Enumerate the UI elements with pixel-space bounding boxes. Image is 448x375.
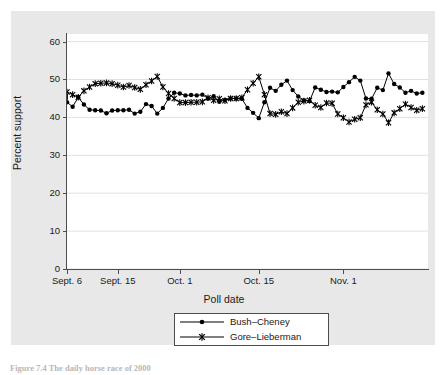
series-1 bbox=[67, 71, 425, 120]
data-point bbox=[408, 104, 413, 111]
data-point bbox=[81, 88, 86, 95]
data-point bbox=[116, 108, 120, 112]
data-point bbox=[144, 102, 148, 106]
data-point bbox=[104, 111, 108, 115]
data-point bbox=[87, 84, 92, 91]
data-point bbox=[132, 111, 136, 115]
data-point bbox=[363, 102, 368, 109]
data-point bbox=[256, 74, 261, 81]
series-line bbox=[67, 73, 422, 118]
data-point bbox=[172, 95, 177, 102]
data-point bbox=[386, 119, 391, 126]
y-tick-mark bbox=[63, 42, 67, 43]
x-tick-label: Oct. 15 bbox=[243, 275, 274, 286]
data-point bbox=[296, 94, 300, 98]
data-point bbox=[313, 85, 317, 89]
data-point bbox=[403, 101, 408, 108]
data-point bbox=[347, 80, 351, 84]
data-point bbox=[183, 93, 187, 97]
data-point bbox=[369, 99, 374, 106]
data-point bbox=[155, 73, 160, 80]
data-point bbox=[161, 106, 165, 110]
y-axis-title: Percent support bbox=[11, 43, 23, 223]
data-point bbox=[160, 84, 165, 91]
y-axis-line bbox=[66, 33, 67, 270]
data-point bbox=[274, 89, 278, 93]
y-tick-label: 50 bbox=[34, 74, 60, 84]
x-tick-label: Nov. 1 bbox=[330, 275, 357, 286]
data-point bbox=[143, 81, 148, 88]
data-point bbox=[195, 93, 199, 97]
x-tick-label: Sept. 15 bbox=[100, 275, 135, 286]
data-point bbox=[279, 108, 284, 115]
data-point bbox=[245, 86, 250, 93]
x-tick-mark bbox=[67, 270, 68, 274]
legend-key-cross-star bbox=[179, 330, 225, 344]
data-point bbox=[290, 105, 295, 112]
y-tick-mark bbox=[63, 79, 67, 80]
y-tick-label: 0 bbox=[34, 264, 60, 274]
data-point bbox=[381, 88, 385, 92]
y-tick-mark bbox=[63, 155, 67, 156]
data-point bbox=[415, 91, 419, 95]
data-point bbox=[409, 89, 413, 93]
data-point bbox=[392, 110, 397, 117]
x-tick-mark bbox=[118, 270, 119, 274]
data-point bbox=[149, 78, 154, 85]
data-point bbox=[386, 71, 390, 75]
data-point bbox=[420, 91, 424, 95]
data-point bbox=[87, 108, 91, 112]
legend-item-gore-lieberman: Gore–Lieberman bbox=[175, 329, 328, 344]
chart-legend: Bush–Cheney Gore–Lieberman bbox=[174, 313, 329, 346]
data-point bbox=[352, 75, 356, 79]
data-point bbox=[138, 86, 143, 93]
x-tick-mark bbox=[259, 270, 260, 274]
data-point bbox=[166, 90, 171, 97]
data-point bbox=[99, 108, 103, 112]
x-axis-title: Poll date bbox=[0, 293, 448, 305]
data-point bbox=[364, 96, 368, 100]
y-tick-labels: 0102030405060 bbox=[30, 0, 60, 375]
y-tick-label: 10 bbox=[34, 226, 60, 236]
data-point bbox=[82, 102, 86, 106]
data-point bbox=[121, 108, 125, 112]
data-point bbox=[70, 91, 75, 98]
data-point bbox=[93, 108, 97, 112]
data-point bbox=[392, 82, 396, 86]
y-tick-label: 30 bbox=[34, 150, 60, 160]
data-point bbox=[279, 83, 283, 87]
data-point bbox=[251, 80, 256, 87]
data-point bbox=[172, 91, 176, 95]
data-point bbox=[70, 105, 74, 109]
data-point bbox=[375, 86, 379, 90]
data-point bbox=[318, 104, 323, 111]
data-point bbox=[166, 96, 170, 100]
figure-caption: Figure 7.4 The daily horse race of 2000 bbox=[10, 363, 440, 373]
y-tick-label: 40 bbox=[34, 112, 60, 122]
data-point bbox=[346, 119, 351, 126]
data-point bbox=[251, 111, 255, 115]
data-point bbox=[285, 78, 289, 82]
plot-svg bbox=[67, 34, 428, 269]
legend-item-bush-cheney: Bush–Cheney bbox=[175, 314, 328, 329]
data-point bbox=[330, 89, 334, 93]
data-point bbox=[189, 93, 193, 97]
data-point bbox=[341, 85, 345, 89]
data-point bbox=[110, 108, 114, 112]
data-point bbox=[268, 86, 272, 90]
series-2 bbox=[67, 73, 425, 126]
data-point bbox=[380, 111, 385, 118]
data-point bbox=[319, 88, 323, 92]
data-point bbox=[398, 85, 402, 89]
data-point bbox=[313, 102, 318, 109]
data-point bbox=[200, 92, 204, 96]
data-point bbox=[335, 111, 340, 118]
x-tick-label: Oct. 1 bbox=[167, 275, 192, 286]
data-point bbox=[178, 91, 182, 95]
x-tick-mark bbox=[180, 270, 181, 274]
x-tick-mark bbox=[343, 270, 344, 274]
y-tick-label: 60 bbox=[34, 37, 60, 47]
data-point bbox=[262, 91, 267, 98]
x-axis-line bbox=[66, 269, 429, 270]
y-tick-mark bbox=[63, 117, 67, 118]
